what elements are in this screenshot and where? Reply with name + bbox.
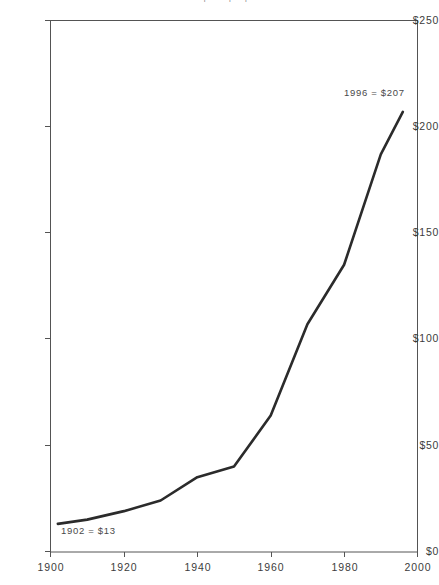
x-tick-1980: 1980 [315,561,375,573]
x-tick-1940: 1940 [168,561,228,573]
x-tick-1900: 1900 [21,561,81,573]
annotation-start-point: 1902 = $13 [61,525,116,536]
annotation-end-point: 1996 = $207 [344,87,405,98]
x-tick-2000: 2000 [388,561,439,573]
chart-container: Food Cost per Capita per Year $250 $200 [0,0,439,585]
x-tick-1960: 1960 [241,561,301,573]
x-tick-1920: 1920 [94,561,154,573]
